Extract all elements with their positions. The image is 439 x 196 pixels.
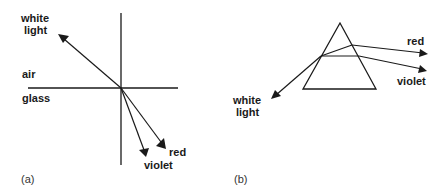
red-arrowhead-icon xyxy=(156,138,166,149)
white-light-label-line2: light xyxy=(24,24,48,36)
panel-b: red violet white light (b) xyxy=(232,23,428,185)
red-label: red xyxy=(407,35,424,47)
red-label: red xyxy=(169,146,186,158)
violet-label: violet xyxy=(397,75,426,87)
panel-a-caption: (a) xyxy=(21,173,34,185)
refracted-violet-ray xyxy=(121,88,144,150)
violet-arrowhead-icon xyxy=(418,65,427,73)
red-ray-inside-prism xyxy=(321,45,352,56)
refracted-red-ray xyxy=(121,88,161,142)
dispersion-figure: white light air glass red violet (a) red… xyxy=(0,0,439,196)
violet-label: violet xyxy=(144,159,173,171)
incident-white-ray xyxy=(64,39,121,88)
red-arrowhead-icon xyxy=(419,49,428,57)
white-light-label-line2: light xyxy=(236,106,260,118)
panel-a: white light air glass red violet (a) xyxy=(20,12,186,185)
white-light-label-line1: white xyxy=(232,94,261,106)
white-light-label-line1: white xyxy=(20,12,49,24)
violet-arrowhead-icon xyxy=(139,148,149,157)
panel-b-caption: (b) xyxy=(234,173,247,185)
air-label: air xyxy=(22,68,36,80)
violet-ray-exit xyxy=(359,56,422,69)
glass-label: glass xyxy=(22,92,50,104)
